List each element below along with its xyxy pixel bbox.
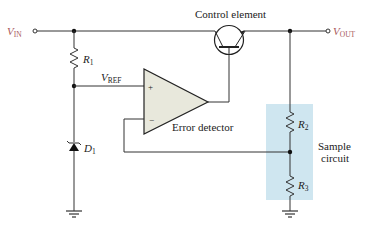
vref-label: VREF [101,71,122,85]
zener-diode-d1 [69,143,79,151]
ground-icon [282,211,298,217]
minus-input-sign: − [149,115,154,125]
plus-input-sign: + [148,82,153,92]
sample-circuit-label-line2: circuit [321,152,349,164]
sample-circuit-label-line1: Sample [318,140,351,152]
vout-label: VOUT [333,25,356,39]
ground-icon [66,211,82,217]
vin-label: VIN [7,25,22,39]
error-detector-label: Error detector [172,121,234,133]
control-element-label: Control element [195,8,266,20]
vin-terminal [33,29,37,33]
junction-dot [288,150,292,154]
opamp-output-wire [208,55,229,102]
vout-terminal [326,29,330,33]
d1-label: D1 [83,142,96,156]
regulator-diagram: VIN VOUT R1 VREF D1 + − Error detector C… [0,0,370,233]
r1-label: R1 [82,53,94,67]
transistor-icon [215,26,246,56]
resistor-r1 [70,48,78,70]
